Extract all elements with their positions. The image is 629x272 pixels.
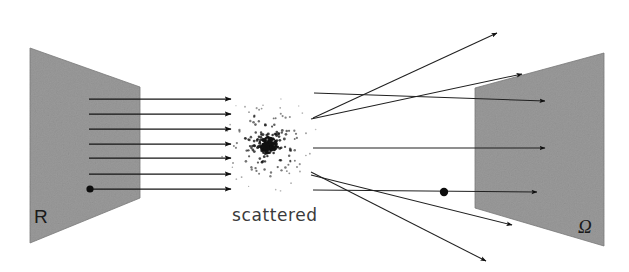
- source-plane-group: R: [30, 48, 140, 243]
- scatter-speck: [296, 166, 298, 168]
- detector-hit-dot: [440, 188, 448, 196]
- scatter-speck: [288, 155, 290, 157]
- scatter-speck: [299, 163, 301, 165]
- scatter-speck: [244, 106, 246, 108]
- scatter-core-speck: [273, 138, 275, 140]
- scatter-speck: [282, 115, 284, 117]
- scatter-speck: [289, 148, 292, 151]
- scatter-speck: [257, 161, 259, 163]
- scatter-speck: [266, 155, 268, 157]
- scatter-speck: [278, 147, 281, 150]
- scatter-speck: [285, 130, 287, 132]
- scatter-speck: [263, 168, 265, 170]
- scatter-core-speck: [272, 146, 275, 149]
- scatter-speck: [280, 98, 281, 99]
- scatter-speck: [248, 186, 249, 187]
- scatter-speck: [271, 126, 273, 128]
- scatter-speck: [275, 189, 277, 191]
- scatter-speck: [284, 166, 287, 169]
- scatter-speck: [288, 172, 290, 174]
- scatter-speck: [260, 131, 262, 133]
- scatter-core-speck: [271, 142, 274, 145]
- scatter-speck: [277, 166, 279, 168]
- scatter-speck: [280, 159, 283, 162]
- ray-up-steep: [313, 33, 497, 118]
- detector-plane-group: Ω: [475, 53, 604, 246]
- scatter-speck: [284, 117, 286, 119]
- scatter-speck: [277, 133, 280, 136]
- scatter-speck: [263, 155, 266, 158]
- scatter-speck: [298, 105, 299, 106]
- scattered-caption: scattered: [232, 205, 318, 225]
- scatter-speck: [250, 166, 252, 168]
- scatter-speck: [296, 137, 298, 139]
- scatter-speck: [279, 107, 281, 109]
- scatter-speck: [305, 132, 307, 134]
- scatter-speck: [254, 123, 257, 126]
- figure-canvas: R Ω scattered: [0, 0, 629, 272]
- scatter-speck: [258, 173, 260, 175]
- scatter-speck: [280, 190, 282, 192]
- scatter-core-speck: [268, 152, 270, 154]
- scatter-speck: [286, 170, 288, 172]
- scatter-speck: [289, 160, 291, 162]
- scatter-speck: [245, 160, 248, 163]
- scatter-speck: [255, 170, 257, 172]
- scatter-speck: [256, 107, 258, 109]
- scatter-speck: [253, 140, 256, 143]
- scatter-speck: [262, 160, 265, 163]
- scatter-speck: [295, 133, 297, 135]
- scatter-speck: [248, 111, 250, 113]
- scatter-speck: [248, 155, 250, 157]
- scatter-speck: [244, 137, 247, 140]
- scatter-speck: [278, 135, 281, 138]
- scatter-speck: [305, 155, 307, 157]
- detector-plane-label: Ω: [578, 216, 592, 237]
- scatter-speck: [283, 138, 286, 141]
- scatter-speck: [259, 157, 262, 160]
- scatter-speck: [249, 120, 251, 122]
- scatter-speck: [275, 117, 277, 119]
- scatter-speck: [309, 153, 311, 155]
- scatter-speck: [287, 164, 289, 166]
- scatter-core-speck: [275, 142, 278, 145]
- scatter-core-speck: [265, 143, 268, 146]
- scatter-speck: [235, 105, 236, 106]
- scatter-speck: [250, 147, 253, 150]
- scatter-speck: [284, 146, 286, 148]
- scatter-speck: [247, 149, 249, 151]
- scatter-speck: [294, 160, 296, 162]
- ray-down-steep: [311, 172, 486, 261]
- scatter-speck: [253, 116, 255, 118]
- scatter-core-speck: [269, 150, 271, 152]
- scatter-core-speck: [269, 147, 271, 149]
- scatter-speck: [294, 138, 296, 140]
- scattering-figure: R Ω scattered: [0, 0, 629, 272]
- scattering-center-cloud: [221, 98, 316, 191]
- scatter-speck: [281, 129, 284, 132]
- scatter-speck: [262, 104, 264, 106]
- scatter-speck: [299, 171, 301, 173]
- scatter-speck: [253, 150, 256, 153]
- scatter-speck: [315, 129, 317, 131]
- scatter-core-speck: [260, 146, 262, 148]
- scatter-speck: [278, 139, 281, 142]
- scatter-speck: [289, 116, 291, 118]
- scatter-speck: [233, 145, 235, 147]
- scatter-speck: [264, 124, 267, 127]
- scatter-speck: [274, 133, 277, 136]
- scatter-speck: [269, 175, 271, 177]
- scatter-speck: [255, 131, 257, 133]
- scatter-speck: [285, 133, 288, 136]
- source-plane-label: R: [34, 206, 48, 227]
- scatter-speck: [290, 182, 292, 184]
- scatter-core-speck: [263, 138, 265, 140]
- scatter-speck: [261, 108, 263, 110]
- scatter-speck: [280, 169, 282, 171]
- scatter-speck: [251, 168, 253, 170]
- scatter-speck: [293, 149, 296, 152]
- scatter-speck: [272, 152, 275, 155]
- incident-origin-dot: [86, 185, 93, 192]
- scatter-core-speck: [266, 136, 269, 139]
- scatter-speck: [232, 166, 234, 168]
